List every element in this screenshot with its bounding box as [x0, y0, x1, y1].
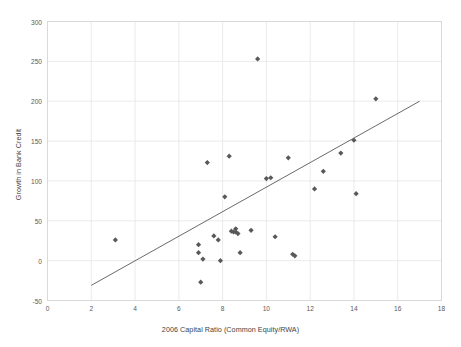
- scatter-chart: 024681012141618-50050100150200250300 200…: [0, 0, 461, 347]
- plot-background: [48, 22, 442, 301]
- x-tick-label: 4: [133, 305, 137, 312]
- x-tick-label: 12: [306, 305, 313, 312]
- plot-svg: [0, 0, 461, 347]
- x-tick-label: 18: [438, 305, 445, 312]
- x-tick-label: 16: [394, 305, 401, 312]
- x-tick-label: 2: [89, 305, 93, 312]
- x-tick-label: 0: [46, 305, 50, 312]
- y-tick-label: 250: [18, 58, 42, 65]
- x-axis-title: 2006 Capital Ratio (Common Equity/RWA): [0, 325, 461, 334]
- y-axis-title: Growth in Bank Credit: [14, 95, 23, 235]
- y-tick-label: 300: [18, 18, 42, 25]
- y-tick-label: 0: [18, 257, 42, 264]
- y-tick-label: -50: [18, 297, 42, 304]
- plot-area: [48, 22, 442, 301]
- x-tick-label: 10: [263, 305, 270, 312]
- x-tick-label: 6: [177, 305, 181, 312]
- x-tick-label: 8: [221, 305, 225, 312]
- x-tick-label: 14: [350, 305, 357, 312]
